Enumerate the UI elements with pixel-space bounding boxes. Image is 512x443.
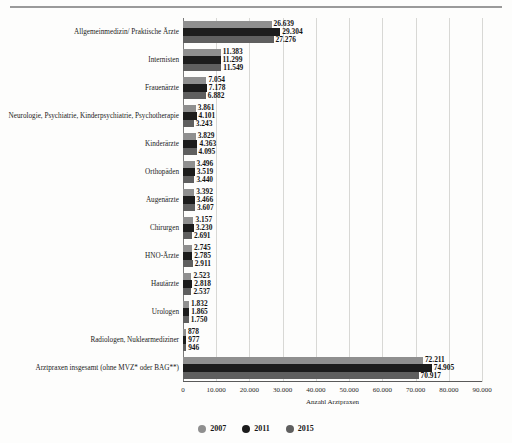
- bar-row: 3.157: [183, 217, 482, 224]
- x-tick-label: 20.000: [240, 386, 259, 394]
- bar-value-label: 11.549: [221, 64, 243, 72]
- legend-item-2011[interactable]: 2011: [242, 424, 270, 433]
- bar-group: Hautärzte2.5232.8182.537: [183, 273, 482, 296]
- bar-value-label: 2.911: [193, 260, 211, 268]
- bar-2011[interactable]: [183, 224, 194, 231]
- bar-2007[interactable]: [183, 133, 196, 140]
- category-label: Frauenärzte: [3, 84, 179, 93]
- bar-2015[interactable]: [183, 64, 221, 71]
- category-label: Neurologie, Psychiatrie, Kinderpsychiatr…: [3, 112, 179, 121]
- bar-row: 70.917: [183, 372, 482, 379]
- bar-row: 4.363: [183, 140, 482, 147]
- category-label: Internisten: [3, 56, 179, 65]
- bar-chart: Allgemeinmedizin/ Praktische Ärzte26.639…: [0, 14, 512, 414]
- bar-row: 1.865: [183, 308, 482, 315]
- bar-row: 2.818: [183, 280, 482, 287]
- legend-item-2015[interactable]: 2015: [286, 424, 314, 433]
- legend-swatch-icon: [198, 425, 206, 433]
- bar-row: 4.095: [183, 148, 482, 155]
- bar-2007[interactable]: [183, 357, 423, 364]
- bar-row: 3.829: [183, 133, 482, 140]
- gridline: [482, 18, 483, 382]
- bar-2011[interactable]: [183, 112, 197, 119]
- x-tick-label: 60.000: [373, 386, 392, 394]
- bar-row: 1.750: [183, 316, 482, 323]
- bar-2011[interactable]: [183, 168, 195, 175]
- bar-2007[interactable]: [183, 77, 206, 84]
- bar-group: Internisten11.38311.29911.549: [183, 49, 482, 72]
- bar-2011[interactable]: [183, 364, 432, 371]
- bar-row: 878: [183, 329, 482, 336]
- bar-group: Urologen1.8321.8651.750: [183, 301, 482, 324]
- legend-label: 2015: [298, 424, 314, 433]
- bar-2011[interactable]: [183, 56, 221, 63]
- x-axis-title: Anzahl Arztpraxen: [183, 398, 482, 406]
- bar-2011[interactable]: [183, 28, 280, 35]
- bar-group: Chirurgen3.1573.2302.691: [183, 217, 482, 240]
- bar-row: 3.230: [183, 224, 482, 231]
- chart-legend: 200720112015: [0, 424, 512, 433]
- bar-2015[interactable]: [183, 148, 197, 155]
- bar-row: 2.537: [183, 288, 482, 295]
- bar-row: 3.440: [183, 176, 482, 183]
- bar-row: 7.178: [183, 84, 482, 91]
- bar-2007[interactable]: [183, 49, 221, 56]
- x-tick-label: 10.000: [207, 386, 226, 394]
- x-tick-label: 50.000: [339, 386, 358, 394]
- bar-2015[interactable]: [183, 36, 274, 43]
- bar-2015[interactable]: [183, 204, 195, 211]
- x-tick-label: 90.000: [472, 386, 491, 394]
- bar-2015[interactable]: [183, 176, 194, 183]
- bar-value-label: 2.537: [191, 288, 210, 296]
- bar-value-label: 2.691: [192, 232, 211, 240]
- bar-row: 3.861: [183, 105, 482, 112]
- bar-2011[interactable]: [183, 84, 207, 91]
- bar-value-label: 1.750: [189, 316, 208, 324]
- x-axis-ticks: 010.00020.00030.00040.00050.00060.00070.…: [183, 386, 482, 398]
- category-label: Chirurgen: [3, 224, 179, 233]
- bar-value-label: 70.917: [419, 372, 441, 380]
- bar-row: 27.276: [183, 36, 482, 43]
- bar-2011[interactable]: [183, 140, 197, 147]
- bar-2007[interactable]: [183, 217, 193, 224]
- bar-group: Augenärzte3.3923.4663.607: [183, 189, 482, 212]
- bar-value-label: 27.276: [274, 36, 296, 44]
- bar-2007[interactable]: [183, 189, 194, 196]
- legend-label: 2007: [210, 424, 226, 433]
- bar-row: 6.882: [183, 92, 482, 99]
- x-tick-label: 30.000: [273, 386, 292, 394]
- legend-item-2007[interactable]: 2007: [198, 424, 226, 433]
- bar-group: Kinderärzte3.8294.3634.095: [183, 133, 482, 156]
- category-label: Kinderärzte: [3, 140, 179, 149]
- bar-2007[interactable]: [183, 161, 195, 168]
- bar-2015[interactable]: [183, 372, 419, 379]
- bar-2015[interactable]: [183, 260, 193, 267]
- bar-2015[interactable]: [183, 288, 191, 295]
- bar-row: 29.304: [183, 28, 482, 35]
- bar-value-label: 3.440: [194, 176, 213, 184]
- bar-row: 3.243: [183, 120, 482, 127]
- bar-2011[interactable]: [183, 280, 192, 287]
- bar-2011[interactable]: [183, 252, 192, 259]
- bar-row: 4.101: [183, 112, 482, 119]
- bar-2015[interactable]: [183, 120, 194, 127]
- bar-2011[interactable]: [183, 196, 195, 203]
- bar-value-label: 3.607: [195, 204, 214, 212]
- bar-group: Radiologen, Nuklearmediziner878977946: [183, 329, 482, 352]
- bar-row: 2.785: [183, 252, 482, 259]
- bar-2007[interactable]: [183, 245, 192, 252]
- plot-area: Allgemeinmedizin/ Praktische Ärzte26.639…: [183, 18, 482, 382]
- bar-row: 2.691: [183, 232, 482, 239]
- bar-2007[interactable]: [183, 273, 191, 280]
- x-tick-label: 0: [181, 386, 185, 394]
- bar-row: 3.466: [183, 196, 482, 203]
- bar-2015[interactable]: [183, 92, 206, 99]
- page-top-rule: [10, 6, 502, 8]
- bar-2007[interactable]: [183, 21, 272, 28]
- bar-2015[interactable]: [183, 232, 192, 239]
- bar-2007[interactable]: [183, 105, 196, 112]
- bar-group: Frauenärzte7.0547.1786.882: [183, 77, 482, 100]
- x-tick-label: 80.000: [439, 386, 458, 394]
- bar-row: 3.496: [183, 161, 482, 168]
- bar-value-label: 3.243: [194, 120, 213, 128]
